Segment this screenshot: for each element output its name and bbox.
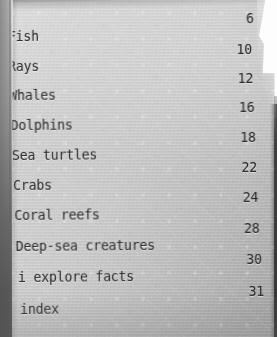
contents-entry-page: 24 [198, 190, 258, 206]
contents-entry-label: Crabs [13, 178, 52, 193]
book-spine-highlight [11, 0, 13, 337]
contents-entry-page: 16 [194, 100, 254, 116]
contents-entry-label: Coral reefs [14, 207, 99, 223]
contents-entry-page: 12 [193, 71, 253, 87]
table-of-contents-list: Fish 6 Rays 10 Whales 12 Dolphins 16 Sea… [0, 0, 277, 337]
contents-entry-page: 22 [197, 160, 257, 176]
bottom-page-shadow [0, 291, 277, 337]
contents-entry-label: Sea turtles [12, 147, 97, 163]
book-contents-page: Fish 6 Rays 10 Whales 12 Dolphins 16 Sea… [0, 0, 277, 337]
contents-entry-label: i explore facts [18, 269, 134, 285]
contents-entry-page: 18 [196, 130, 256, 146]
contents-entry-page: 28 [199, 221, 259, 237]
contents-entry-page: 6 [194, 11, 254, 27]
contents-entry-label: Dolphins [11, 118, 73, 134]
contents-entry-page: 10 [192, 42, 252, 58]
contents-entry-page: 30 [202, 252, 262, 268]
contents-entry-label: Deep-sea creatures [16, 238, 155, 254]
